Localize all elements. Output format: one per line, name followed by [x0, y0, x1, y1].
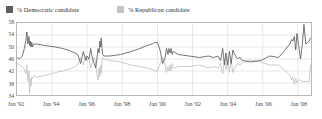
legend-label-republican: % Republican candidate	[128, 6, 190, 13]
y-axis-tick-labels: 34384246505458	[0, 22, 15, 96]
poll-line-chart: % Democratic candidate % Republican cand…	[0, 0, 322, 119]
y-tick-label: 42	[8, 68, 14, 74]
x-tick-label: Jan '96	[78, 101, 95, 107]
x-tick-label: Jan '02	[184, 101, 201, 107]
x-axis-tick-labels: Jan '92Jan '94Jan '96Jan '98Jan '00Jan '…	[16, 98, 312, 116]
series-lines	[17, 23, 311, 95]
legend-swatch-democratic	[6, 6, 13, 13]
plot-area	[16, 22, 312, 96]
x-tick-label: Jan '04	[220, 101, 237, 107]
x-tick-label: Jan '08	[290, 101, 307, 107]
x-tick-label: Jan '94	[43, 101, 60, 107]
legend-swatch-republican	[117, 6, 124, 13]
legend-item-democratic[interactable]: % Democratic candidate	[6, 6, 79, 13]
y-tick-label: 54	[8, 31, 14, 37]
chart-legend: % Democratic candidate % Republican cand…	[0, 0, 322, 18]
plot-wrapper: 34384246505458 Jan '92Jan '94Jan '96Jan …	[0, 18, 322, 119]
x-tick-label: Jan '98	[114, 101, 131, 107]
y-tick-label: 38	[8, 81, 14, 87]
x-tick-label: Jan '92	[8, 101, 25, 107]
y-tick-label: 34	[8, 93, 14, 99]
y-tick-label: 50	[8, 44, 14, 50]
series-line	[17, 24, 310, 68]
legend-label-democratic: % Democratic candidate	[17, 6, 79, 13]
x-tick-label: Jan '00	[149, 101, 166, 107]
y-tick-label: 58	[8, 19, 14, 25]
y-tick-label: 46	[8, 56, 14, 62]
legend-item-republican[interactable]: % Republican candidate	[117, 6, 190, 13]
x-tick-label: Jan '06	[255, 101, 272, 107]
